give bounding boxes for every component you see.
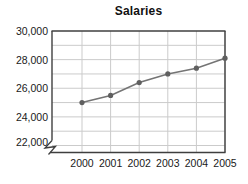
- salaries-line-chart: Salaries 22,00024,00026,00028,00030,0002…: [0, 0, 248, 184]
- x-tick-label: 2004: [185, 157, 209, 169]
- data-point-2001: [108, 93, 113, 98]
- y-tick-label: 28,000: [16, 54, 48, 66]
- chart-title: Salaries: [52, 4, 225, 18]
- y-tick-label: 30,000: [16, 25, 48, 37]
- data-point-2003: [165, 71, 170, 76]
- y-tick-label: 22,000: [16, 136, 48, 148]
- x-tick-label: 2000: [70, 157, 94, 169]
- data-point-2005: [222, 56, 227, 61]
- x-tick-label: 2002: [128, 157, 152, 169]
- x-tick-label: 2005: [213, 157, 237, 169]
- x-tick-label: 2003: [156, 157, 180, 169]
- data-point-2004: [194, 66, 199, 71]
- salary-trend-line: [82, 58, 225, 102]
- x-tick-label: 2001: [99, 157, 123, 169]
- data-point-2000: [79, 100, 84, 105]
- y-tick-label: 24,000: [16, 111, 48, 123]
- y-tick-label: 26,000: [16, 82, 48, 94]
- data-point-2002: [137, 80, 142, 85]
- chart-plot-area: 22,00024,00026,00028,00030,0002000200120…: [0, 0, 248, 184]
